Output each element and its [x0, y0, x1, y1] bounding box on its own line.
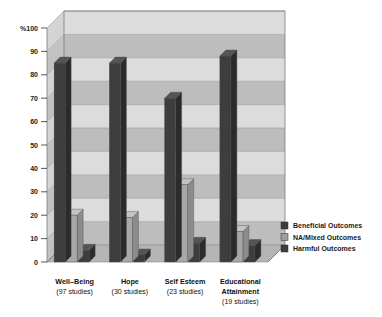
back-wall-band — [64, 58, 285, 81]
y-axis-tick-label: %100 — [20, 25, 38, 32]
bar-side-face — [65, 57, 71, 262]
bar-front-face — [54, 63, 65, 262]
bar — [165, 92, 182, 262]
y-axis-tick-label: 10 — [30, 235, 38, 242]
legend-swatch — [281, 222, 288, 229]
category-sublabel: (97 studies) — [56, 288, 93, 296]
y-axis-tick-label: 20 — [30, 212, 38, 219]
bar-front-face — [220, 56, 231, 262]
bar — [54, 57, 71, 262]
bar — [220, 50, 237, 262]
bar-side-face — [188, 179, 194, 262]
back-wall-band — [64, 34, 285, 57]
category-sublabel: (23 studies) — [167, 288, 204, 296]
y-axis-tick-label: 90 — [30, 48, 38, 55]
category-label-line2: Attainment — [222, 287, 260, 296]
category-sublabel: (19 studies) — [222, 298, 259, 306]
legend-label: Beneficial Outcomes — [293, 222, 362, 229]
legend-swatch — [281, 245, 288, 252]
y-axis-tick-label: 70 — [30, 95, 38, 102]
bar-front-face — [109, 63, 120, 262]
back-wall-band — [64, 11, 285, 34]
category-sublabel: (30 studies) — [112, 288, 149, 296]
bar-side-face — [231, 50, 237, 262]
legend-swatch — [281, 234, 288, 241]
y-axis-tick-label: 30 — [30, 188, 38, 195]
legend-label: NA/Mixed Outcomes — [293, 234, 361, 241]
chart-container: %1009080706050403020100 Well–Being(97 st… — [0, 0, 382, 317]
category-label: Educational — [220, 277, 261, 286]
chart-legend: Beneficial OutcomesNA/Mixed OutcomesHarm… — [281, 222, 362, 252]
y-axis-tick-label: 50 — [30, 142, 38, 149]
bar-side-face — [243, 226, 249, 262]
category-label: Well–Being — [55, 277, 94, 286]
bar-side-face — [77, 209, 83, 262]
bar — [109, 57, 126, 262]
bar-side-face — [120, 57, 126, 262]
category-label: Hope — [121, 277, 139, 286]
y-axis-tick-label: 80 — [30, 71, 38, 78]
bar-side-face — [132, 212, 138, 262]
category-label: Self Esteem — [165, 277, 206, 286]
y-axis-tick-label: 60 — [30, 118, 38, 125]
bar-front-face — [165, 98, 176, 262]
y-axis-tick-label: 40 — [30, 165, 38, 172]
y-axis-tick-label: 0 — [34, 259, 38, 266]
bar-chart-3d: %1009080706050403020100 Well–Being(97 st… — [0, 0, 382, 317]
legend-label: Harmful Outcomes — [293, 245, 356, 252]
bar-side-face — [176, 92, 182, 262]
